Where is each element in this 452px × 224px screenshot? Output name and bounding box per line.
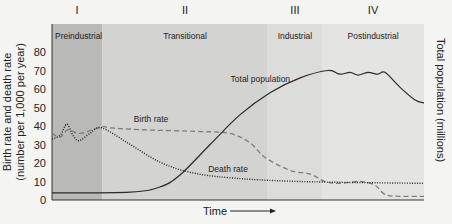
y-tick-label: 40 [34, 120, 46, 132]
stage-band-4 [322, 24, 424, 200]
annotation-birth-rate: Birth rate [134, 114, 169, 124]
y-tick-label: 70 [34, 65, 46, 77]
stage-name-3: Industrial [278, 31, 313, 41]
y-tick-label: 50 [34, 102, 46, 114]
stage-numeral-4: IV [368, 4, 379, 16]
y-tick-label: 20 [34, 157, 46, 169]
demographic-transition-chart: IPreindustrialIITransitionalIIIIndustria… [0, 0, 452, 224]
x-axis-title: Time [203, 205, 227, 217]
stage-numeral-1: I [76, 4, 79, 16]
y-tick-label: 10 [34, 176, 46, 188]
y-axis-title: Birth rate and death rate [1, 53, 13, 172]
stage-band-3 [268, 24, 322, 200]
y2-axis-title: Total population (millions) [435, 38, 447, 162]
stage-name-1: Preindustrial [55, 31, 102, 41]
y-axis-subtitle: (number per 1,000 per year) [14, 43, 26, 181]
stage-name-2: Transitional [163, 31, 207, 41]
stage-numeral-2: II [182, 4, 188, 16]
stage-band-1 [52, 24, 102, 200]
y-tick-label: 60 [34, 83, 46, 95]
stage-numeral-3: III [290, 4, 299, 16]
stage-name-4: Postindustrial [348, 31, 399, 41]
y-tick-label: 30 [34, 139, 46, 151]
y-tick-label: 0 [40, 194, 46, 206]
y-tick-label: 80 [34, 46, 46, 58]
annotation-death-rate: Death rate [208, 164, 248, 174]
annotation-total-population: Total population [231, 74, 291, 84]
y-tick-labels: 01020304050607080 [34, 46, 46, 206]
time-arrow-icon [230, 209, 276, 214]
